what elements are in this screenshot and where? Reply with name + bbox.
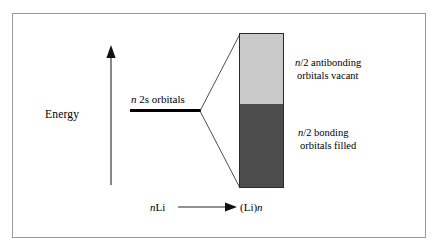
antibonding-band-segment [240, 34, 283, 104]
reaction-left-term: nLi [150, 201, 165, 213]
reaction-arrow [178, 199, 238, 215]
level-label-rest: 2s orbitals [137, 93, 185, 105]
bonding-caption-line1: /2 bonding [303, 127, 348, 138]
antibonding-caption: n/2 antibonding orbitals vacant [295, 56, 361, 82]
antibonding-caption-line1: /2 antibonding [300, 57, 361, 68]
reaction-right-rest: (Li) [240, 201, 257, 213]
energy-axis-label: Energy [45, 108, 79, 120]
bonding-band-segment [240, 104, 283, 187]
reaction-right-italic-n: n [257, 201, 263, 213]
reaction-left-rest: Li [156, 201, 166, 213]
reaction-right-term: (Li)n [240, 201, 263, 213]
band-diagram-figure: Energy n 2s orbitals n/2 antibonding orb… [0, 0, 440, 252]
energy-axis-arrow [103, 44, 119, 189]
level-label: n 2s orbitals [131, 93, 185, 105]
bonding-caption-line2: orbitals filled [298, 139, 356, 152]
atomic-level-bar [130, 109, 201, 112]
antibonding-caption-line2: orbitals vacant [295, 69, 361, 82]
energy-band-block [239, 33, 284, 188]
reaction-axis: nLi (Li)n [150, 199, 285, 219]
bonding-caption: n/2 bonding orbitals filled [298, 126, 356, 152]
